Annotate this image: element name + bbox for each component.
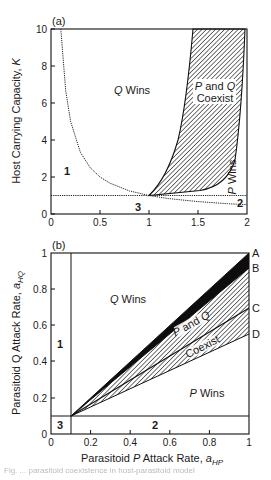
svg-text:0: 0 (41, 429, 47, 440)
y-ticks-a (51, 29, 55, 214)
y-axis-label-b: Parasitoid Q Attack Rate, aHQ (10, 271, 25, 415)
q-wins-label-a: Q Wins (114, 84, 151, 96)
caption-fragment: Fig. ... parasitoid coexistence in host-… (4, 466, 267, 478)
svg-text:0.8: 0.8 (33, 284, 47, 295)
line-label-c: C (252, 302, 260, 314)
x-tick-labels-a: 0 0.5 1 1.5 2 (48, 217, 250, 228)
region-2-label-a: 2 (237, 197, 243, 209)
region-2-label-b: 2 (152, 419, 158, 431)
y-axis-label-a: Host Carrying Capacity, K (10, 57, 22, 183)
x-ticks-b (91, 430, 210, 434)
svg-text:0.4: 0.4 (33, 356, 47, 367)
line-c (71, 308, 249, 416)
svg-text:2: 2 (41, 172, 47, 183)
svg-text:0.2: 0.2 (33, 393, 47, 404)
svg-text:1: 1 (246, 437, 252, 448)
svg-text:10: 10 (36, 24, 48, 35)
svg-text:1: 1 (146, 217, 152, 228)
x-axis-label-b: Parasitoid P Attack Rate, aHP (81, 452, 224, 467)
coexist-label-a-line2: Coexist (197, 92, 234, 104)
panel-a: (a) 0 2 4 6 8 10 (10, 15, 250, 228)
svg-text:0.5: 0.5 (93, 217, 107, 228)
region-3-label-a: 3 (135, 201, 141, 213)
p-wins-label-b: P Wins (190, 387, 225, 399)
svg-text:0.6: 0.6 (33, 320, 47, 331)
svg-text:6: 6 (41, 98, 47, 109)
svg-text:0.2: 0.2 (84, 437, 98, 448)
line-label-a: A (252, 247, 260, 259)
region-3-label-b: 3 (57, 419, 63, 431)
svg-text:2: 2 (244, 217, 250, 228)
figure: (a) 0 2 4 6 8 10 (0, 0, 271, 480)
line-label-d: D (252, 328, 260, 340)
y-ticks-b (51, 289, 55, 398)
svg-text:1.5: 1.5 (191, 217, 205, 228)
region-1-label-b: 1 (57, 338, 63, 350)
svg-text:8: 8 (41, 61, 47, 72)
panel-a-label: (a) (52, 15, 65, 27)
x-ticks-a (100, 210, 198, 214)
svg-text:0.6: 0.6 (163, 437, 177, 448)
y-tick-labels-b: 0 0.2 0.4 0.6 0.8 1 (33, 248, 47, 440)
coexist-label-a-line1: P and Q (195, 80, 236, 92)
q-wins-label-b: Q Wins (110, 293, 147, 305)
svg-text:1: 1 (41, 248, 47, 259)
p-wins-label-a: P Wins (226, 159, 238, 194)
x-tick-labels-b: 0 0.2 0.4 0.6 0.8 1 (48, 437, 252, 448)
svg-text:0: 0 (41, 209, 47, 220)
region-1-label-a: 1 (64, 165, 70, 177)
svg-text:0: 0 (48, 217, 54, 228)
svg-text:0: 0 (48, 437, 54, 448)
svg-text:0.8: 0.8 (202, 437, 216, 448)
panel-b: (b) 0 0.2 0.4 0.6 0.8 1 (10, 239, 260, 467)
svg-text:4: 4 (41, 135, 47, 146)
svg-text:0.4: 0.4 (123, 437, 137, 448)
panel-b-label: (b) (52, 239, 65, 251)
line-label-b: B (252, 262, 259, 274)
y-tick-labels-a: 0 2 4 6 8 10 (36, 24, 48, 220)
